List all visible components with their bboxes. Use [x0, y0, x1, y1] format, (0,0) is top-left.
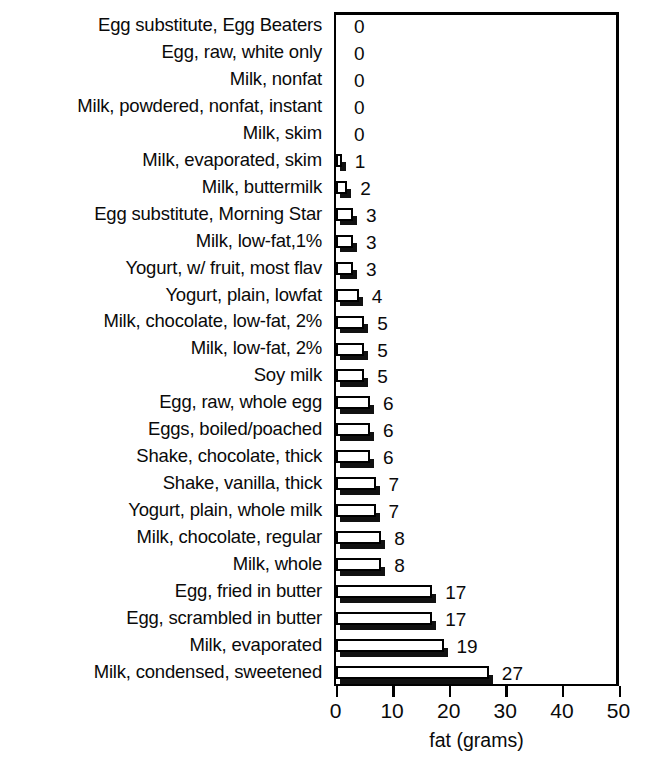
bar-value-label: 0: [354, 16, 365, 38]
bar-value-label: 0: [354, 70, 365, 92]
bar-row: 0: [336, 42, 616, 69]
bar: [336, 262, 353, 275]
bar-value-label: 8: [394, 528, 405, 550]
category-label: Egg substitute, Egg Beaters: [0, 12, 322, 39]
bar-row: 27: [336, 662, 616, 689]
bar-value-label: 4: [372, 286, 383, 308]
bar: [336, 558, 381, 571]
bar-row: 5: [336, 339, 616, 366]
bar: [336, 289, 359, 302]
bar: [336, 612, 432, 625]
bar-value-label: 7: [389, 474, 400, 496]
bar-value-label: 3: [366, 205, 377, 227]
bar: [336, 396, 370, 409]
bar-row: 3: [336, 204, 616, 231]
bar-value-label: 17: [445, 609, 466, 631]
bar-row: 3: [336, 258, 616, 285]
x-axis-tick: [505, 686, 508, 697]
bar: [336, 423, 370, 436]
category-label: Egg substitute, Morning Star: [0, 201, 322, 228]
bar: [336, 477, 376, 490]
x-axis-title: fat (grams): [334, 729, 619, 752]
category-label: Egg, fried in butter: [0, 578, 322, 605]
bar: [336, 666, 489, 679]
category-label: Shake, chocolate, thick: [0, 443, 322, 470]
bar-value-label: 0: [354, 97, 365, 119]
bar: [336, 450, 370, 463]
x-axis-tick-label: 40: [542, 699, 582, 723]
x-axis-tick-label: 30: [485, 699, 525, 723]
bar-row: 17: [336, 581, 616, 608]
category-label: Milk, powdered, nonfat, instant: [0, 93, 322, 120]
category-label: Yogurt, plain, lowfat: [0, 282, 322, 309]
category-label: Milk, low-fat,1%: [0, 228, 322, 255]
x-axis: 01020304050: [334, 686, 619, 687]
category-label: Milk, chocolate, low-fat, 2%: [0, 308, 322, 335]
bar-value-label: 3: [366, 232, 377, 254]
category-label: Shake, vanilla, thick: [0, 470, 322, 497]
bar: [336, 316, 364, 329]
bar: [336, 369, 364, 382]
bar-row: 1: [336, 150, 616, 177]
bar-value-label: 27: [502, 663, 523, 685]
bar-value-label: 2: [360, 178, 371, 200]
category-label: Egg, scrambled in butter: [0, 605, 322, 632]
x-axis-tick-label: 50: [599, 699, 639, 723]
fat-grams-bar-chart: Egg substitute, Egg BeatersEgg, raw, whi…: [0, 0, 645, 772]
bar-row: 0: [336, 15, 616, 42]
bar: [336, 343, 364, 356]
bar-row: 6: [336, 392, 616, 419]
bar-row: 2: [336, 177, 616, 204]
bar-row: 6: [336, 419, 616, 446]
bar-row: 19: [336, 635, 616, 662]
bar-value-label: 5: [377, 340, 388, 362]
bar-row: 7: [336, 473, 616, 500]
category-label: Eggs, boiled/poached: [0, 416, 322, 443]
bar-value-label: 6: [383, 393, 394, 415]
bar-value-label: 7: [389, 501, 400, 523]
category-label: Egg, raw, white only: [0, 39, 322, 66]
category-label: Yogurt, w/ fruit, most flav: [0, 255, 322, 282]
category-label: Milk, skim: [0, 120, 322, 147]
category-label: Milk, evaporated, skim: [0, 147, 322, 174]
bar-row: 8: [336, 554, 616, 581]
bar-value-label: 6: [383, 420, 394, 442]
category-label: Soy milk: [0, 362, 322, 389]
x-axis-tick-label: 10: [372, 699, 412, 723]
category-label: Milk, whole: [0, 551, 322, 578]
bar-row: 7: [336, 500, 616, 527]
category-label: Milk, evaporated: [0, 632, 322, 659]
category-label: Milk, buttermilk: [0, 174, 322, 201]
bar-row: 0: [336, 69, 616, 96]
category-label: Milk, condensed, sweetened: [0, 659, 322, 686]
plot-area: 00000123334555666778817171927: [334, 12, 619, 686]
bar-value-label: 17: [445, 582, 466, 604]
x-axis-tick-label: 20: [429, 699, 469, 723]
bar: [336, 639, 444, 652]
bar-value-label: 5: [377, 313, 388, 335]
x-axis-tick: [336, 686, 339, 697]
bar-value-label: 19: [457, 636, 478, 658]
x-axis-tick-label: 0: [316, 699, 356, 723]
bar-value-label: 0: [354, 124, 365, 146]
bar-value-label: 5: [377, 366, 388, 388]
bar-value-label: 0: [354, 43, 365, 65]
x-axis-tick: [449, 686, 452, 697]
category-label: Milk, nonfat: [0, 66, 322, 93]
bar: [336, 235, 353, 248]
bar-row: 6: [336, 446, 616, 473]
category-label: Yogurt, plain, whole milk: [0, 497, 322, 524]
bar-value-label: 3: [366, 259, 377, 281]
category-label: Milk, chocolate, regular: [0, 524, 322, 551]
category-axis-labels: Egg substitute, Egg BeatersEgg, raw, whi…: [0, 12, 322, 686]
bar-row: 17: [336, 608, 616, 635]
bar-row: 8: [336, 527, 616, 554]
bar: [336, 181, 347, 194]
bar-row: 5: [336, 365, 616, 392]
bar: [336, 531, 381, 544]
x-axis-tick: [392, 686, 395, 697]
bar-row: 3: [336, 231, 616, 258]
bar-value-label: 6: [383, 447, 394, 469]
bar-row: 0: [336, 123, 616, 150]
bar: [336, 585, 432, 598]
